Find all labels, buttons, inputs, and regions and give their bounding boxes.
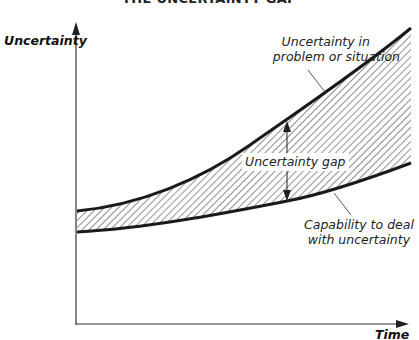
uncertainty-curve-label-line1: Uncertainty in xyxy=(250,34,400,49)
uncertainty-curve-label-line2: problem or situation xyxy=(230,49,400,64)
gap-label: Uncertainty gap xyxy=(242,153,349,171)
lower-leader-line xyxy=(334,193,351,215)
capability-curve-label-line1: Capability to deal xyxy=(304,217,414,232)
uncertainty-curve-label: Uncertainty in problem or situation xyxy=(250,34,400,64)
y-axis-label: Uncertainty xyxy=(4,33,87,48)
y-axis xyxy=(72,22,80,325)
x-axis xyxy=(76,320,409,328)
capability-curve-label: Capability to deal with uncertainty xyxy=(304,217,414,247)
upper-leader-line xyxy=(308,70,325,92)
x-axis-label: Time xyxy=(375,327,409,340)
capability-curve-label-line2: with uncertainty xyxy=(304,232,414,247)
